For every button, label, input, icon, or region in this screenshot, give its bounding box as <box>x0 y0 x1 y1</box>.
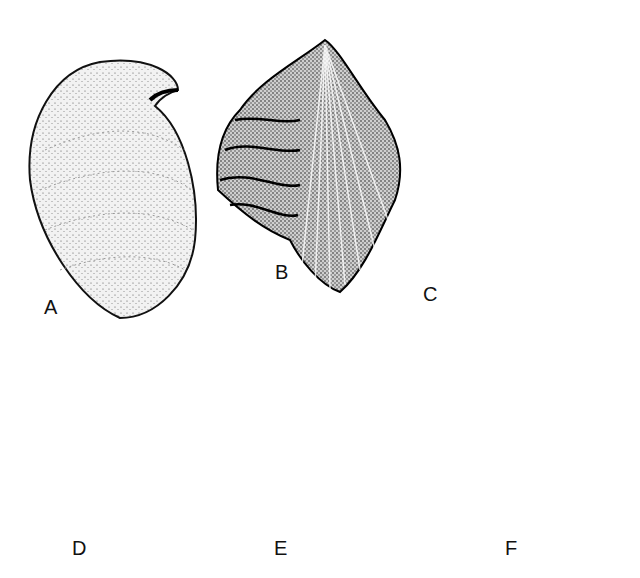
panel-label-f: F <box>505 538 517 558</box>
fossil-a <box>29 61 195 318</box>
panel-label-a: A <box>44 297 57 317</box>
panel-label-c: C <box>423 284 437 304</box>
panel-label-b: B <box>275 262 288 282</box>
panel-label-d: D <box>72 538 86 558</box>
panel-label-e: E <box>274 538 287 558</box>
fossil-b <box>217 40 400 292</box>
fossil-illustration <box>0 0 640 578</box>
